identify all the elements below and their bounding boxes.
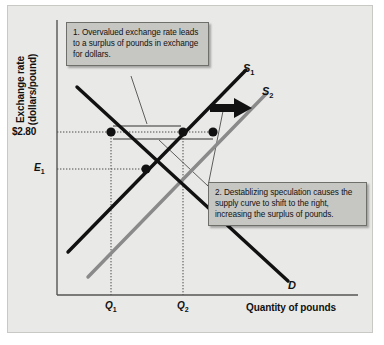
quantity-tick-q1: Q1 [105,300,117,313]
demand-at-fixed-rate-dot [106,127,115,136]
y-axis-title-line2: (dollars/pound) [26,54,37,125]
price-tick-e1-sub: 1 [41,168,45,175]
quantity-tick-q1-sub: 1 [113,306,117,313]
quantity-tick-q2-sub: 2 [185,306,189,313]
equilibrium-point-dot [141,164,150,173]
callout-box-2: 2. Destablizing speculation causes the s… [208,182,367,226]
callout-box-1: 1. Overvalued exchange rate leads to a s… [66,22,209,66]
callout-1-leader [131,76,147,124]
supply1-at-fixed-rate-dot [178,127,187,136]
y-axis-title: Exchange rate (dollars/pound) [15,20,38,160]
supply-curve-s1-label-sub: 1 [250,68,254,77]
y-axis-title-line1: Exchange rate [15,56,26,123]
demand-curve-d-label: D [288,279,296,291]
supply-curve-s2-label-sub: 2 [269,91,273,100]
price-tick-280-label: $2.80 [12,126,36,137]
supply-curve-s1-label: S1 [243,62,255,77]
price-tick-280: $2.80 [12,126,36,137]
quantity-tick-q1-label: Q [105,300,113,311]
supply2-at-fixed-rate-dot [208,127,217,136]
quantity-tick-q2: Q2 [177,300,189,313]
supply-curve-s2-label: S2 [262,85,274,100]
figure-screenshot: Exchange rate (dollars/pound) Quantity o… [0,0,384,345]
price-tick-e1-label: E [34,162,41,173]
price-tick-e1: E1 [34,162,45,175]
x-axis-title: Quantity of pounds [246,302,336,313]
quantity-tick-q2-label: Q [177,300,185,311]
demand-curve-d-label-text: D [288,279,296,291]
